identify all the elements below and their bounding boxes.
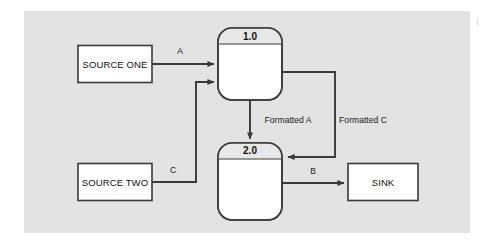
entity-source-one[interactable]: SOURCE ONE: [78, 46, 152, 83]
diagram-canvas: SOURCE ONE SOURCE TWO SINK A C 1.0: [0, 0, 494, 248]
process-2-number: 2.0: [243, 145, 257, 156]
process-2[interactable]: 2.0: [218, 143, 282, 220]
flow-a[interactable]: A: [152, 46, 214, 64]
flow-b-label: B: [310, 166, 316, 176]
flow-a-label: A: [177, 46, 183, 56]
entity-sink-label: SINK: [372, 177, 395, 188]
flow-c-label: C: [170, 165, 176, 175]
process-1-number: 1.0: [243, 31, 257, 42]
entity-sink[interactable]: SINK: [348, 164, 418, 201]
entity-source-one-label: SOURCE ONE: [83, 59, 148, 70]
flow-formatted-c-label: Formatted C: [339, 115, 387, 125]
entity-source-two-label: SOURCE TWO: [82, 177, 148, 188]
flow-formatted-a-label: Formatted A: [265, 115, 312, 125]
process-1[interactable]: 1.0: [218, 28, 282, 100]
flow-b[interactable]: B: [282, 166, 344, 183]
flow-c[interactable]: C: [152, 82, 214, 182]
page-corner-mark: (: [476, 14, 482, 27]
flow-formatted-a[interactable]: Formatted A: [250, 100, 312, 139]
entity-source-two[interactable]: SOURCE TWO: [78, 164, 152, 201]
data-flow-diagram: SOURCE ONE SOURCE TWO SINK A C 1.0: [0, 0, 494, 248]
